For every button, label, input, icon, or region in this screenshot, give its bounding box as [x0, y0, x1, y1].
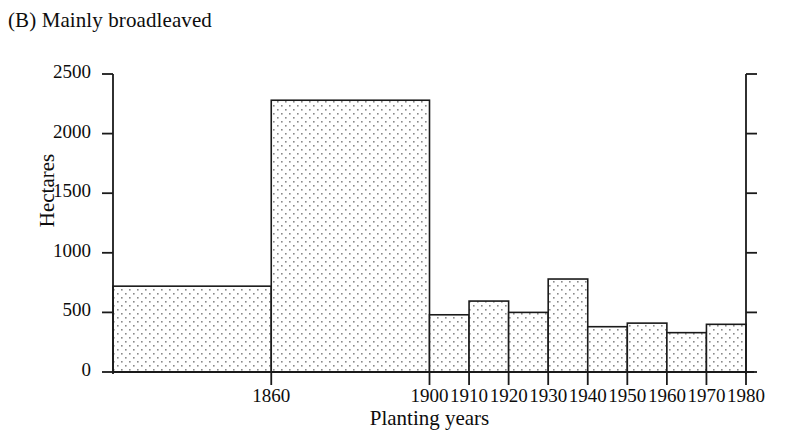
histogram-bar [706, 324, 746, 372]
histogram-bar [430, 315, 470, 372]
histogram-bar [548, 279, 588, 372]
histogram-bar [627, 323, 667, 372]
y-tick-label: 1000 [13, 240, 91, 262]
histogram-bar [588, 327, 628, 372]
figure-panel: (B) Mainly broadleaved Hectares Planting… [0, 0, 785, 437]
histogram-bar [469, 301, 509, 372]
histogram-bar [113, 286, 271, 372]
x-tick-label: 1860 [231, 385, 311, 407]
y-tick-label: 0 [13, 359, 91, 381]
y-tick-label: 2500 [13, 61, 91, 83]
histogram-plot [0, 0, 785, 437]
histogram-bar [509, 312, 549, 372]
y-tick-label: 500 [13, 299, 91, 321]
y-tick-label: 1500 [13, 180, 91, 202]
x-tick-label: 1980 [706, 385, 785, 407]
histogram-bar [667, 333, 707, 372]
bars-layer [113, 100, 746, 372]
histogram-bar [271, 100, 429, 372]
y-tick-label: 2000 [13, 121, 91, 143]
